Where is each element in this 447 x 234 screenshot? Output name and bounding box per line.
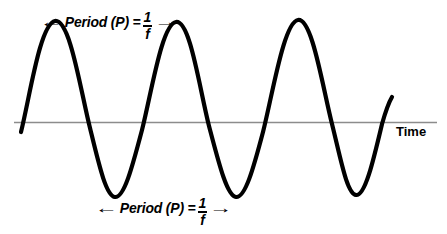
fraction-denominator: f <box>199 213 205 228</box>
fraction-numerator: 1 <box>198 196 208 211</box>
period-label-top: Period (P) = <box>64 14 142 30</box>
arrow-left-icon: ← <box>40 14 63 29</box>
period-annotation-top: ← Period (P) = 1 f → <box>48 6 169 37</box>
waveform-period-diagram: ← Period (P) = 1 f → ← Period (P) = 1 f … <box>0 0 447 234</box>
fraction-numerator: 1 <box>143 10 153 25</box>
fraction-one-over-f-bottom: 1 f <box>198 196 208 227</box>
period-annotation-bottom: ← Period (P) = 1 f → <box>103 192 224 223</box>
fraction-denominator: f <box>144 27 150 42</box>
period-label-bottom: Period (P) = <box>119 200 197 216</box>
arrow-right-icon: → <box>209 200 232 215</box>
arrow-left-icon: ← <box>95 200 118 215</box>
time-axis-label: Time <box>396 124 426 139</box>
sine-wave-path <box>21 20 392 197</box>
arrow-right-icon: → <box>154 14 177 29</box>
fraction-one-over-f-top: 1 f <box>143 10 153 41</box>
